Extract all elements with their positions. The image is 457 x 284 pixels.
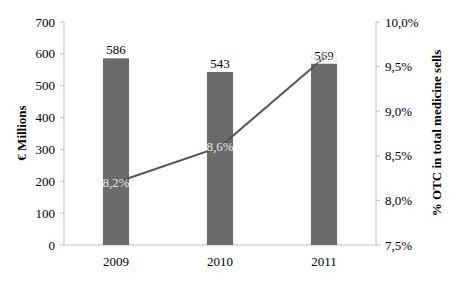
right-y-axis: 7,5%8,0%8,5%9,0%9,5%10,0% [376,15,419,253]
left-tick-label: 100 [36,206,56,221]
line-value-label: 8,6% [206,139,233,154]
right-tick-label: 9,0% [385,104,412,119]
left-axis-title: € Millions [14,105,29,160]
bar-value-label: 586 [106,42,126,57]
combo-chart: 0100200300400500600700 7,5%8,0%8,5%9,0%9… [0,0,457,284]
left-tick-label: 600 [36,46,56,61]
x-axis-labels: 200920102011 [103,254,337,269]
left-tick-label: 0 [49,238,56,253]
right-axis-title: % OTC in total medicine sells [429,50,444,216]
bar-value-label: 543 [210,56,230,71]
left-tick-label: 500 [36,78,56,93]
bar [207,72,233,245]
left-tick-label: 400 [36,110,56,125]
x-tick-label: 2010 [207,254,233,269]
right-tick-label: 9,5% [385,59,412,74]
left-tick-label: 200 [36,174,56,189]
bar [311,64,337,245]
left-tick-label: 700 [36,15,56,30]
x-tick-label: 2011 [311,254,337,269]
left-tick-label: 300 [36,142,56,157]
right-tick-label: 10,0% [385,15,419,30]
line-value-label: 9,6% [310,50,337,65]
bar [103,58,129,245]
right-tick-label: 7,5% [385,238,412,253]
x-tick-label: 2009 [103,254,129,269]
right-tick-label: 8,0% [385,193,412,208]
line-value-label: 8,2% [102,175,129,190]
right-tick-label: 8,5% [385,148,412,163]
